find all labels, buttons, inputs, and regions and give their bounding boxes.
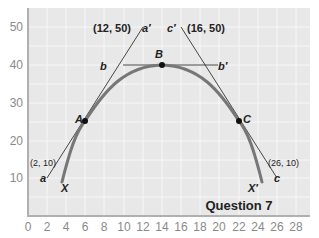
label-x-prime: X′ [247, 182, 259, 194]
y-tick: 10 [10, 171, 24, 185]
x-tick: 24 [251, 220, 265, 234]
y-tick: 30 [10, 96, 24, 110]
coord-label-c: (26, 10) [268, 158, 299, 168]
x-tick: 2 [44, 220, 51, 234]
label-c: c [274, 172, 280, 184]
coord-label-a-prime: (12, 50) [93, 22, 131, 34]
x-tick: 6 [82, 220, 89, 234]
y-tick: 40 [10, 58, 24, 72]
label-c-prime: c′ [167, 22, 177, 34]
chart: 50 40 30 20 10 0 2 4 6 8 10 12 14 16 18 … [0, 0, 319, 238]
x-tick: 22 [232, 220, 246, 234]
y-tick: 50 [10, 20, 24, 34]
label-b: b [100, 60, 107, 72]
caption: Question 7 [205, 198, 272, 213]
x-tick: 18 [193, 220, 207, 234]
x-tick: 8 [101, 220, 108, 234]
x-tick: 20 [212, 220, 226, 234]
plot-area [27, 8, 310, 216]
x-tick: 12 [136, 220, 150, 234]
point-c [236, 118, 242, 124]
point-b [159, 62, 165, 68]
label-a: a [40, 172, 46, 184]
y-tick: 20 [10, 134, 24, 148]
x-tick: 16 [174, 220, 188, 234]
label-a-prime: a′ [142, 22, 152, 34]
coord-label-a: (2, 10) [30, 158, 56, 168]
label-x: X [60, 182, 69, 194]
label-point-a: A [74, 113, 83, 125]
coord-label-c-prime: (16, 50) [187, 22, 225, 34]
label-point-b: B [155, 48, 163, 60]
y-tick-labels: 50 40 30 20 10 [10, 20, 24, 185]
label-b-prime: b′ [218, 60, 229, 72]
x-tick-labels: 0 2 4 6 8 10 12 14 16 18 20 22 24 26 28 [25, 220, 303, 234]
x-tick: 4 [63, 220, 70, 234]
x-tick: 0 [25, 220, 32, 234]
label-point-c: C [243, 113, 252, 125]
x-tick: 14 [155, 220, 169, 234]
x-tick: 28 [289, 220, 303, 234]
x-tick: 10 [117, 220, 131, 234]
x-tick: 26 [270, 220, 284, 234]
